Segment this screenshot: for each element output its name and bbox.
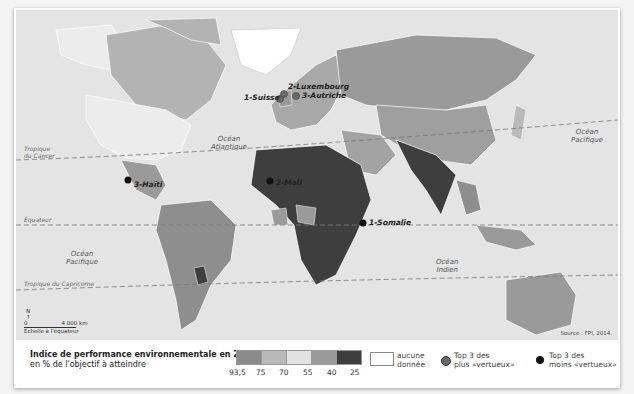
ramp-swatch-5 — [336, 350, 362, 365]
ocean-label-pacific-west: OcéanPacifique — [66, 250, 98, 266]
no-data-label: aucunedonnée — [397, 351, 425, 369]
ramp-swatch-4 — [311, 350, 337, 365]
ocean-label-pacific-east: OcéanPacifique — [571, 128, 603, 144]
map-scale: N↑ 04 000 km Échelle à l'équateur — [24, 308, 88, 334]
ramp-swatch-2 — [261, 350, 287, 365]
no-data-swatch — [370, 352, 394, 366]
world-map-svg — [16, 10, 618, 340]
legend: Indice de performance environnementale e… — [16, 342, 618, 384]
label-autriche: 3-Autriche — [302, 91, 346, 100]
world-map: OcéanAtlantique OcéanPacifique OcéanPaci… — [16, 10, 618, 340]
legend-title: Indice de performance environnementale e… — [30, 350, 259, 370]
label-suisse: 1-Suisse — [244, 93, 280, 102]
ocean-label-indian: OcéanIndien — [436, 258, 458, 274]
scale-zero: 0 — [24, 320, 28, 326]
ramp-swatch-1 — [236, 350, 262, 365]
scale-caption: Échelle à l'équateur — [24, 328, 88, 334]
least-virtuous-label: Top 3 desmoins «vertueux» — [549, 351, 617, 369]
color-ramp — [236, 350, 361, 365]
label-haiti: 3-Haïti — [134, 180, 162, 189]
ocean-label-atlantic: OcéanAtlantique — [211, 135, 247, 151]
north-arrow: N↑ — [26, 308, 88, 320]
label-mali: 2-Mali — [276, 178, 302, 187]
top-virtuous-label: Top 3 desplus «vertueux» — [454, 351, 515, 369]
label-somalie: 1-Somalie — [369, 218, 411, 227]
least-virtuous-dot-icon — [536, 356, 544, 364]
top-virtuous-dot-icon — [441, 356, 451, 366]
ramp-swatch-3 — [286, 350, 312, 365]
label-luxembourg: 2-Luxembourg — [288, 82, 349, 91]
map-source: Source : FPI, 2014. — [560, 330, 612, 336]
scale-distance: 4 000 km — [62, 320, 88, 326]
tropic-capricorn-label: Tropique du Capricorne — [24, 280, 94, 287]
equator-label: Équateur — [24, 216, 51, 223]
tropic-cancer-label: Tropiquedu Cancer — [24, 145, 55, 159]
